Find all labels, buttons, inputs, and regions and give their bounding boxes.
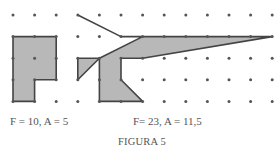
figure-title: FIGURA 5 [118, 136, 166, 147]
grid-dot [98, 78, 101, 81]
grid-dot [228, 57, 231, 60]
grid-dot [98, 14, 101, 17]
grid-dot [184, 100, 187, 103]
grid-dot [163, 100, 166, 103]
grid-dot [98, 100, 101, 103]
grid-dot [184, 78, 187, 81]
grid-dot [249, 100, 252, 103]
grid-dot [76, 35, 79, 38]
grid-dot [33, 14, 36, 17]
grid-dot [55, 35, 58, 38]
grid-dot [12, 78, 15, 81]
grid-dot [55, 14, 58, 17]
grid-dot [271, 78, 274, 81]
grid-dot [271, 57, 274, 60]
grid-dot [141, 14, 144, 17]
grid-dot [33, 100, 36, 103]
grid-dot [163, 35, 166, 38]
grid-dot [206, 35, 209, 38]
grid-dot [228, 14, 231, 17]
grid-dot [55, 78, 58, 81]
grid-dot [76, 14, 79, 17]
grid-dot [249, 78, 252, 81]
grid-dot [33, 78, 36, 81]
grid-dot [120, 57, 123, 60]
grid-dot [206, 57, 209, 60]
grid-dot [249, 14, 252, 17]
grid-dot [33, 57, 36, 60]
grid-dot [55, 100, 58, 103]
grid-dot [271, 35, 274, 38]
grid-dot [141, 78, 144, 81]
grid-dot [228, 35, 231, 38]
grid-dot [76, 57, 79, 60]
geoboard-figure [0, 0, 279, 157]
grid-dot [206, 100, 209, 103]
grid-dot [141, 100, 144, 103]
grid-dot [33, 35, 36, 38]
grid-dot [12, 100, 15, 103]
grid-dot [141, 57, 144, 60]
grid-dot [120, 78, 123, 81]
grid-dot [76, 100, 79, 103]
grid-dot [120, 35, 123, 38]
grid-dot [271, 14, 274, 17]
grid-dot [76, 78, 79, 81]
grid-dot [206, 78, 209, 81]
grid-dot [163, 78, 166, 81]
grid-dot [184, 14, 187, 17]
grid-dot [184, 57, 187, 60]
caption-left-shape: F = 10, A = 5 [10, 115, 68, 127]
grid-dot [98, 57, 101, 60]
grid-dot [206, 14, 209, 17]
shape-right [78, 15, 272, 101]
grid-dot [120, 14, 123, 17]
grid-dot [271, 100, 274, 103]
grid-dot [55, 57, 58, 60]
grid-dot [98, 35, 101, 38]
grid-dot [163, 14, 166, 17]
grid-dot [12, 57, 15, 60]
grid-dot [184, 35, 187, 38]
grid-dot [249, 35, 252, 38]
shape-left [13, 37, 56, 102]
grid-dot [228, 100, 231, 103]
grid-dot [228, 78, 231, 81]
caption-right-shape: F= 23, A = 11,5 [133, 115, 202, 127]
grid-dot [249, 57, 252, 60]
grid-dot [120, 100, 123, 103]
grid-dot [12, 35, 15, 38]
grid-dot [141, 35, 144, 38]
grid-dot [163, 57, 166, 60]
grid-dot [12, 14, 15, 17]
